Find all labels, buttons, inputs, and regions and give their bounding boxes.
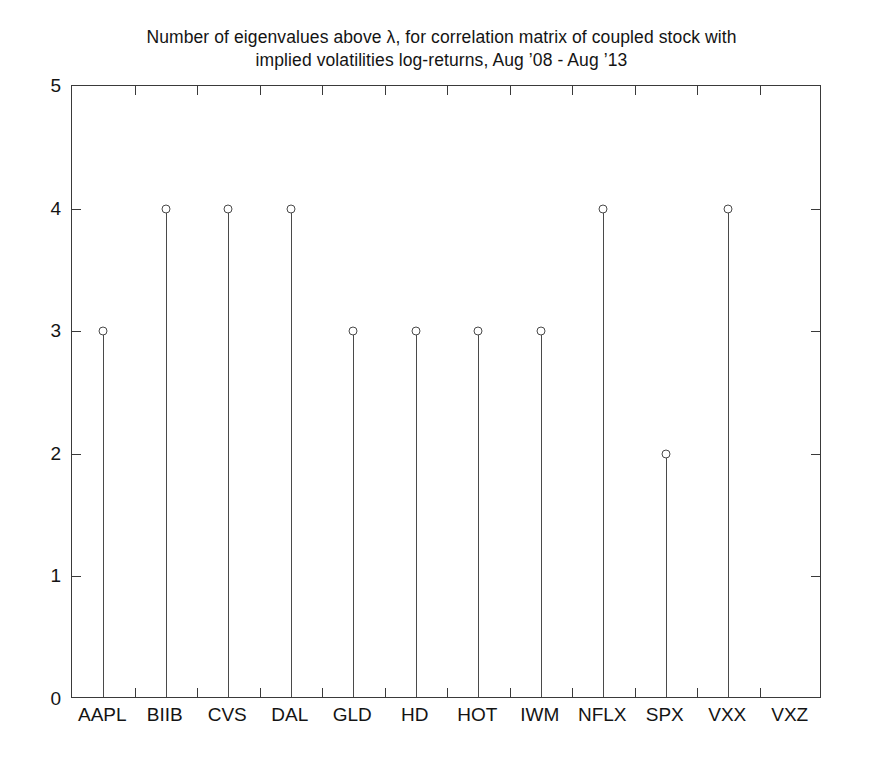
x-tick-mark — [260, 86, 261, 95]
y-tick-mark — [811, 576, 820, 577]
y-tick-mark — [811, 454, 820, 455]
x-tick-label: NFLX — [578, 704, 627, 726]
x-tick-mark — [510, 688, 511, 697]
stem-marker[interactable] — [349, 327, 358, 336]
y-tick-mark — [72, 331, 81, 332]
y-tick-label: 3 — [15, 321, 61, 340]
stem-marker[interactable] — [286, 204, 295, 213]
stem-marker[interactable] — [724, 204, 733, 213]
y-tick-label: 0 — [15, 689, 61, 708]
x-tick-mark — [447, 688, 448, 697]
stem-line — [166, 207, 167, 697]
y-axis-tick-labels: 012345 — [9, 85, 61, 698]
stem-line — [666, 452, 667, 697]
stem-marker[interactable] — [99, 327, 108, 336]
x-axis-tick-labels: AAPLBIIBCVSDALGLDHDHOTIWMNFLXSPXVXXVXZ — [71, 704, 821, 734]
x-tick-mark — [135, 86, 136, 95]
x-tick-label: CVS — [208, 704, 247, 726]
x-tick-label: IWM — [520, 704, 559, 726]
x-tick-mark — [260, 688, 261, 697]
x-tick-mark — [760, 86, 761, 95]
x-tick-mark — [510, 86, 511, 95]
y-tick-mark — [72, 454, 81, 455]
figure-canvas: Number of eigenvalues above λ, for corre… — [0, 0, 883, 757]
stem-marker[interactable] — [661, 449, 670, 458]
y-tick-label: 1 — [15, 566, 61, 585]
x-tick-label: HD — [401, 704, 428, 726]
x-tick-mark — [697, 688, 698, 697]
x-tick-mark — [322, 86, 323, 95]
x-tick-mark — [322, 688, 323, 697]
stem-line — [228, 207, 229, 697]
stem-marker[interactable] — [474, 327, 483, 336]
x-tick-label: VXX — [708, 704, 746, 726]
chart-title: Number of eigenvalues above λ, for corre… — [0, 26, 883, 72]
stem-line — [353, 329, 354, 697]
y-tick-label: 2 — [15, 443, 61, 462]
x-tick-mark — [635, 688, 636, 697]
stem-marker[interactable] — [161, 204, 170, 213]
plot-area — [71, 85, 821, 698]
x-tick-mark — [635, 86, 636, 95]
x-tick-mark — [385, 688, 386, 697]
x-tick-mark — [572, 86, 573, 95]
stem-marker[interactable] — [224, 204, 233, 213]
stem-line — [416, 329, 417, 697]
stem-line — [541, 329, 542, 697]
x-tick-label: HOT — [457, 704, 497, 726]
x-tick-label: GLD — [333, 704, 372, 726]
x-tick-mark — [697, 86, 698, 95]
x-tick-label: BIIB — [147, 704, 183, 726]
stem-line — [478, 329, 479, 697]
x-tick-mark — [447, 86, 448, 95]
x-tick-mark — [135, 688, 136, 697]
stem-marker[interactable] — [411, 327, 420, 336]
stem-line — [291, 207, 292, 697]
y-tick-mark — [811, 331, 820, 332]
stem-marker[interactable] — [536, 327, 545, 336]
stem-line — [728, 207, 729, 697]
stem-line — [103, 329, 104, 697]
x-tick-mark — [197, 688, 198, 697]
x-tick-mark — [197, 86, 198, 95]
x-tick-label: AAPL — [78, 704, 127, 726]
x-tick-mark — [572, 688, 573, 697]
y-tick-label: 4 — [15, 198, 61, 217]
x-tick-mark — [760, 688, 761, 697]
stem-marker[interactable] — [599, 204, 608, 213]
x-tick-label: DAL — [271, 704, 308, 726]
stem-line — [603, 207, 604, 697]
x-tick-mark — [385, 86, 386, 95]
y-tick-label: 5 — [15, 76, 61, 95]
y-tick-mark — [811, 209, 820, 210]
x-tick-label: SPX — [646, 704, 684, 726]
y-tick-mark — [72, 576, 81, 577]
y-tick-mark — [72, 209, 81, 210]
x-tick-label: VXZ — [771, 704, 808, 726]
